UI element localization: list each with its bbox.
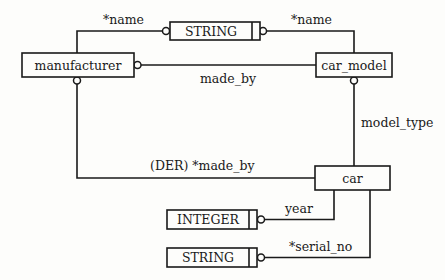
edge-model-type: model_type xyxy=(351,77,434,166)
optional-ring-icon xyxy=(163,28,170,35)
value-type-label: STRING xyxy=(182,250,234,265)
value-type-label: STRING xyxy=(185,24,237,39)
edge-manufacturer-name: *name xyxy=(77,12,170,53)
value-type-integer[interactable]: INTEGER xyxy=(167,210,257,229)
value-type-string-top[interactable]: STRING xyxy=(170,22,260,40)
edge-der-made-by: (DER) *made_by xyxy=(74,77,316,178)
entity-label: car_model xyxy=(321,58,386,73)
label-year: year xyxy=(284,201,313,216)
label-manufacturer-name: *name xyxy=(103,12,144,27)
orm-diagram: *name *name made_by model_type (DER) *ma… xyxy=(0,0,445,280)
optional-ring-icon xyxy=(351,77,358,84)
edge-year: year xyxy=(258,190,335,223)
edge-car-model-name: *name xyxy=(260,12,355,53)
entity-car-model[interactable]: car_model xyxy=(316,53,392,77)
entity-label: car xyxy=(342,171,362,186)
optional-ring-icon xyxy=(258,254,265,261)
label-serial-no: *serial_no xyxy=(289,239,352,254)
entity-manufacturer[interactable]: manufacturer xyxy=(22,53,134,77)
optional-ring-icon xyxy=(134,62,141,69)
edge-serial-no: *serial_no xyxy=(258,190,371,261)
optional-ring-icon xyxy=(74,77,81,84)
value-type-label: INTEGER xyxy=(177,212,239,227)
label-made-by: made_by xyxy=(200,71,257,86)
optional-ring-icon xyxy=(258,216,265,223)
label-model-type: model_type xyxy=(361,115,434,130)
edge-made-by: made_by xyxy=(134,62,316,87)
label-car-model-name: *name xyxy=(291,12,332,27)
label-der-made-by: (DER) *made_by xyxy=(150,158,255,173)
entity-car[interactable]: car xyxy=(315,166,390,190)
entity-label: manufacturer xyxy=(35,58,122,73)
value-type-string-bottom[interactable]: STRING xyxy=(167,248,257,267)
